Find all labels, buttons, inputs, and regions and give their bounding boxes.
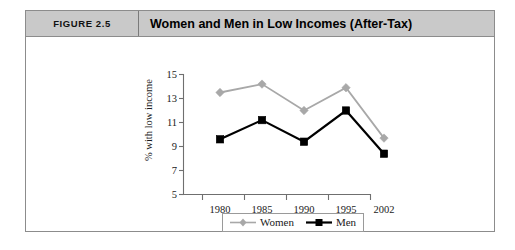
data-point-marker — [300, 138, 307, 145]
legend-label-men: Men — [336, 216, 356, 228]
legend-label-women: Women — [260, 216, 294, 228]
series-women — [216, 80, 388, 142]
y-tick-label-15: 15 — [167, 69, 178, 80]
figure-title: Women and Men in Low Incomes (After-Tax) — [139, 11, 494, 36]
y-tick-label-9: 9 — [172, 141, 177, 152]
data-point-marker — [258, 116, 265, 123]
figure-number-label: FIGURE 2.5 — [26, 11, 139, 36]
chart-legend: Women Men — [222, 213, 364, 232]
series-men — [216, 107, 387, 158]
line-chart-svg: % with low income 15 13 11 9 7 5 — [26, 37, 496, 231]
data-point-marker — [380, 150, 387, 157]
y-axis-title: % with low income — [143, 79, 154, 161]
data-point-marker — [216, 136, 223, 143]
data-point-marker — [216, 88, 224, 96]
y-tick-label-5: 5 — [172, 189, 177, 200]
legend-entry-women: Women — [230, 216, 294, 228]
data-point-marker — [342, 107, 349, 114]
y-tick-label-11: 11 — [167, 117, 177, 128]
data-point-marker — [300, 106, 308, 114]
data-point-marker — [258, 80, 266, 88]
x-tick-label-2002: 2002 — [374, 204, 395, 215]
y-tick-label-13: 13 — [167, 93, 178, 104]
series-line — [220, 111, 384, 154]
legend-marker-women-icon — [230, 217, 256, 228]
y-tick-label-7: 7 — [172, 165, 177, 176]
figure-header: FIGURE 2.5 Women and Men in Low Incomes … — [26, 11, 494, 37]
legend-marker-men-icon — [306, 217, 332, 228]
figure-frame: FIGURE 2.5 Women and Men in Low Incomes … — [25, 10, 495, 232]
chart-plot-area: % with low income 15 13 11 9 7 5 — [26, 37, 494, 231]
legend-entry-men: Men — [306, 216, 356, 228]
